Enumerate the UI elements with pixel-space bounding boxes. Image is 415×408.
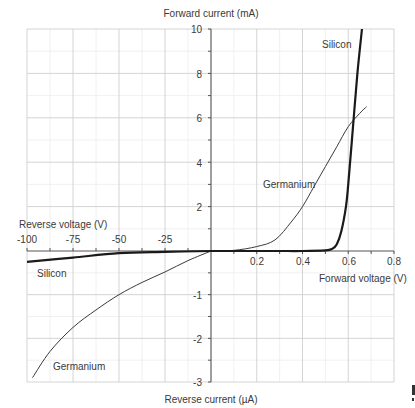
silicon-forward-label: Silicon xyxy=(322,39,351,50)
germanium-reverse-label: Germanium xyxy=(53,361,105,372)
tick-label: 0.4 xyxy=(296,256,310,267)
tick-label: -100 xyxy=(17,234,37,245)
tick-label: -2 xyxy=(193,334,202,345)
silicon-reverse-label: Silicon xyxy=(37,268,66,279)
tick-label: 0.6 xyxy=(342,256,356,267)
tick-label: 2 xyxy=(196,202,202,213)
reverse-current-tick-labels: -1 -2 -3 xyxy=(193,290,202,388)
tick-label: 6 xyxy=(196,113,202,124)
reverse-current-axis-title: Reverse current (µA) xyxy=(164,394,257,405)
diode-iv-chart: -100 -75 -50 -25 0.2 0.4 0.6 0.8 10 8 6 … xyxy=(0,0,415,408)
cropped-edge-mark xyxy=(412,398,414,401)
tick-label: -50 xyxy=(112,234,127,245)
tick-label: -75 xyxy=(66,234,81,245)
tick-label: -1 xyxy=(193,290,202,301)
tick-label: -25 xyxy=(158,234,173,245)
tick-label: 8 xyxy=(196,69,202,80)
tick-label: -3 xyxy=(193,377,202,388)
tick-label: 4 xyxy=(196,158,202,169)
forward-current-axis-title: Forward current (mA) xyxy=(163,8,258,19)
tick-label: 10 xyxy=(191,24,203,35)
tick-label: 0.2 xyxy=(250,256,264,267)
forward-voltage-axis-title: Forward voltage (V) xyxy=(319,273,407,284)
tick-label: 0.8 xyxy=(387,256,401,267)
reverse-voltage-axis-title: Reverse voltage (V) xyxy=(19,219,107,230)
reverse-voltage-tick-labels: -100 -75 -50 -25 xyxy=(17,234,173,245)
germanium-forward-label: Germanium xyxy=(263,179,315,190)
